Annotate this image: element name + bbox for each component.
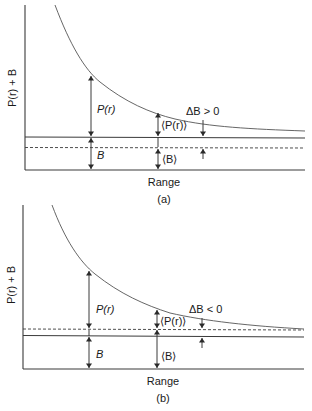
mean-pr-label: ⟨P(r)⟩ (161, 119, 187, 131)
y-axis-label: P(r) + B (5, 266, 17, 304)
b-label: B (96, 348, 103, 360)
x-axis-label: Range (148, 176, 180, 188)
signal-curve (55, 5, 305, 131)
lidar-background-diagram: P(r) + B P(r) B ⟨P(r)⟩ ⟨B⟩ ΔB > 0 Range … (0, 0, 312, 411)
background-line-mean (25, 148, 305, 149)
background-line-true (25, 137, 305, 138)
delta-b-label: ΔB > 0 (186, 105, 219, 117)
background-line-true (23, 336, 304, 338)
mean-b-label: ⟨B⟩ (162, 153, 177, 165)
panel-caption: (b) (156, 392, 169, 404)
panel-caption: (a) (157, 193, 170, 205)
mean-b-label: ⟨B⟩ (161, 350, 176, 362)
mean-pr-label: ⟨P(r)⟩ (160, 315, 186, 327)
x-axis-label: Range (147, 375, 179, 387)
pr-label: P(r) (97, 103, 116, 115)
pr-label: P(r) (96, 303, 115, 315)
background-line-mean (23, 329, 304, 330)
b-label: B (97, 149, 104, 161)
panel-a: P(r) + B P(r) B ⟨P(r)⟩ ⟨B⟩ ΔB > 0 Range … (6, 5, 305, 205)
signal-curve (52, 205, 304, 329)
delta-b-label: ΔB < 0 (189, 303, 222, 315)
y-axis-label: P(r) + B (6, 69, 18, 107)
panel-b: P(r) + B P(r) B ⟨P(r)⟩ ⟨B⟩ ΔB < 0 Range … (5, 205, 304, 404)
